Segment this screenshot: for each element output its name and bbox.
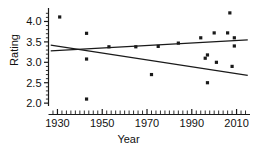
- data-point: [206, 81, 209, 84]
- data-point: [134, 45, 137, 48]
- data-point: [206, 53, 209, 56]
- x-axis-ticks: [53, 109, 246, 115]
- data-point: [230, 65, 233, 68]
- data-point: [85, 57, 88, 60]
- data-point: [228, 11, 231, 14]
- x-tick-label: 1950: [90, 117, 114, 129]
- y-tick-label: 4.0: [26, 15, 41, 27]
- data-point: [150, 73, 153, 76]
- axes: [49, 8, 251, 115]
- data-point: [213, 31, 216, 34]
- data-point: [85, 32, 88, 35]
- x-tick-label: 1970: [135, 117, 159, 129]
- trend-line-falling-trend: [51, 45, 248, 75]
- data-point: [204, 57, 207, 60]
- x-tick-label: 1930: [45, 117, 69, 129]
- x-axis-label: Year: [0, 133, 257, 145]
- data-point: [85, 97, 88, 100]
- data-point: [199, 36, 202, 39]
- data-point: [233, 36, 236, 39]
- y-tick-label: 2.0: [26, 97, 41, 109]
- data-point: [233, 44, 236, 47]
- x-axis-tick-labels: 19301950197019902010: [45, 117, 249, 129]
- y-axis-tick-labels: 2.02.53.03.54.0: [26, 15, 41, 109]
- y-axis-ticks: [44, 13, 49, 103]
- x-tick-label: 2010: [224, 117, 248, 129]
- data-point: [226, 31, 229, 34]
- data-point: [157, 45, 160, 48]
- y-tick-label: 3.5: [26, 36, 41, 48]
- data-point: [177, 42, 180, 45]
- scatter-chart: 2.02.53.03.54.0 19301950197019902010 Rat…: [0, 0, 257, 153]
- x-tick-label: 1990: [180, 117, 204, 129]
- data-point: [58, 15, 61, 18]
- data-point: [215, 61, 218, 64]
- data-points: [58, 11, 236, 100]
- data-point: [107, 45, 110, 48]
- y-tick-label: 2.5: [26, 77, 41, 89]
- y-axis-label: Rating: [8, 20, 20, 80]
- y-tick-label: 3.0: [26, 56, 41, 68]
- trend-lines: [51, 40, 248, 76]
- plot-area: 2.02.53.03.54.0 19301950197019902010: [0, 0, 257, 153]
